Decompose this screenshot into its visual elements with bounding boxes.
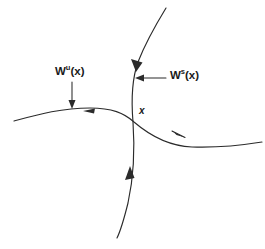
stable-manifold-label: Ws(x): [170, 70, 199, 82]
unstable-manifold-label-base: W: [55, 65, 66, 77]
flow-arrow-stable-upper: [131, 59, 143, 72]
pointer-arrow-unstable-label: [69, 82, 76, 109]
unstable-manifold-curve: [14, 108, 262, 147]
manifold-diagram: Wu(x) Ws(x) x: [0, 0, 265, 249]
fixed-point-label: x: [139, 106, 145, 116]
unstable-manifold-label: Wu(x): [55, 66, 85, 78]
manifold-diagram-canvas: [0, 0, 265, 249]
stable-manifold-label-base: W: [170, 69, 181, 81]
stable-manifold-label-argument: (x): [185, 69, 199, 81]
flow-arrow-unstable-left: [83, 109, 95, 114]
unstable-manifold-label-argument: (x): [70, 65, 84, 77]
pointer-arrow-stable-label: [135, 75, 166, 82]
stable-manifold-curve: [117, 8, 166, 238]
flow-arrow-unstable-right: [172, 131, 185, 138]
